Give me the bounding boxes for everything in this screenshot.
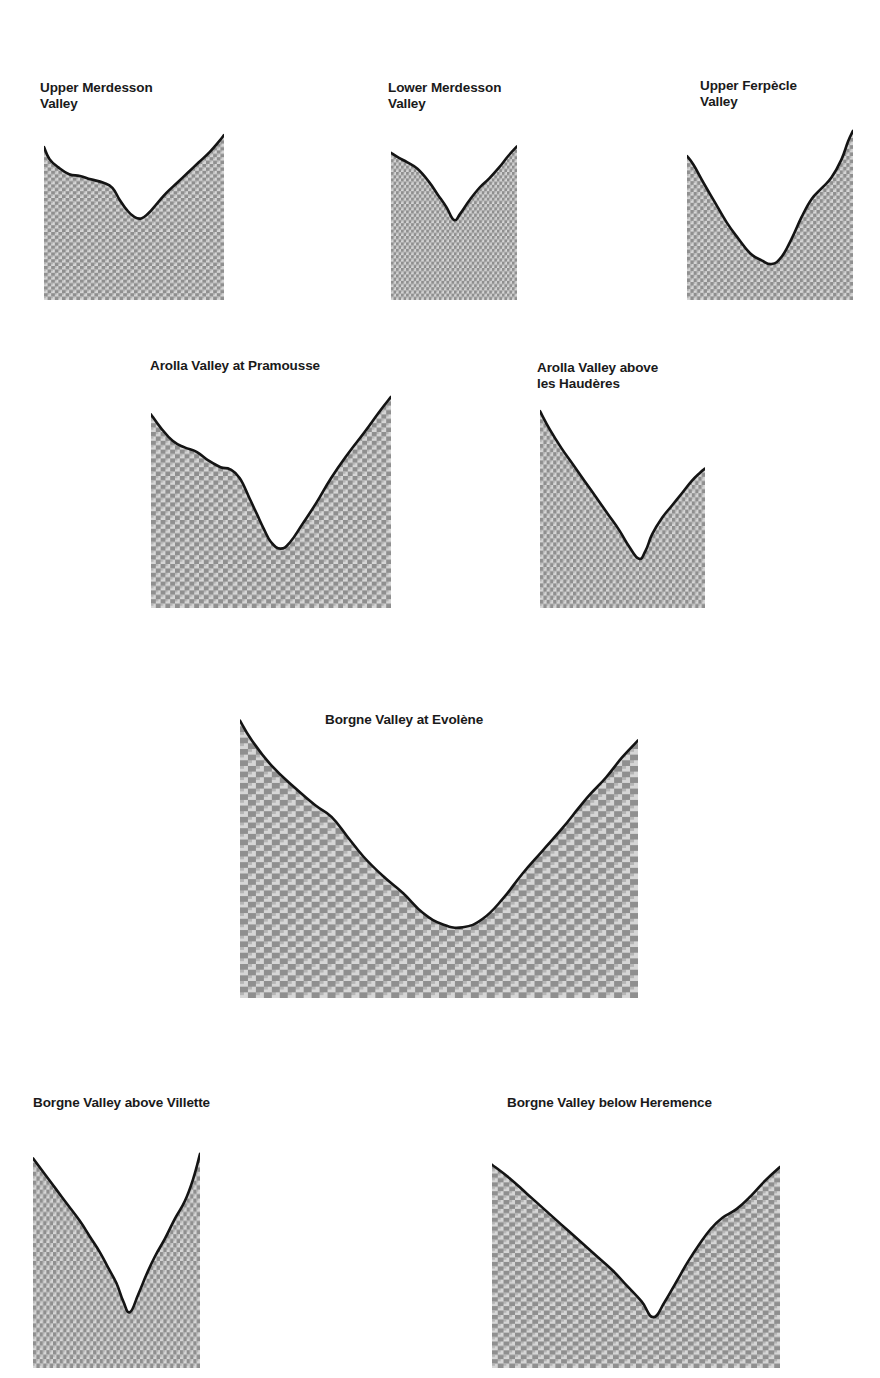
panel-title-arolla-valley-at-pramousse: Arolla Valley at Pramousse xyxy=(150,358,320,374)
valley-profile-lower-merdesson-valley xyxy=(391,140,517,300)
panel-title-upper-merdesson-valley: Upper Merdesson Valley xyxy=(40,80,153,111)
valley-profile-borgne-valley-below-heremence xyxy=(492,1147,780,1368)
valley-profile-arolla-valley-above-les-hauderes xyxy=(540,403,705,608)
valley-fill-upper-ferpecle-valley xyxy=(687,131,853,300)
valley-fill-borgne-valley-at-evolene xyxy=(240,721,638,998)
valley-profile-borgne-valley-at-evolene xyxy=(240,715,638,998)
valley-profiles-figure: Upper Merdesson ValleyLower Merdesson Va… xyxy=(0,0,880,1378)
panel-title-lower-merdesson-valley: Lower Merdesson Valley xyxy=(388,80,501,111)
valley-fill-arolla-valley-above-les-hauderes xyxy=(540,411,705,608)
panel-title-arolla-valley-above-les-hauderes: Arolla Valley above les Haudères xyxy=(537,360,658,391)
valley-fill-arolla-valley-at-pramousse xyxy=(151,397,391,608)
valley-profile-upper-merdesson-valley xyxy=(44,130,224,300)
valley-fill-borgne-valley-below-heremence xyxy=(492,1165,780,1368)
panel-title-upper-ferpecle-valley: Upper Ferpècle Valley xyxy=(700,78,797,109)
panel-title-borgne-valley-below-heremence: Borgne Valley below Heremence xyxy=(507,1095,712,1111)
panel-title-borgne-valley-above-villette: Borgne Valley above Villette xyxy=(33,1095,210,1111)
valley-profile-borgne-valley-above-villette xyxy=(33,1145,200,1368)
valley-profile-arolla-valley-at-pramousse xyxy=(151,388,391,608)
valley-fill-borgne-valley-above-villette xyxy=(33,1154,200,1368)
valley-profile-upper-ferpecle-valley xyxy=(687,120,853,300)
